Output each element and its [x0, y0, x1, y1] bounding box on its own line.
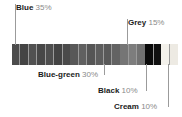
callout-percent-cream: 10%: [141, 102, 157, 111]
callout-name-blue-green: Blue-green: [38, 70, 80, 79]
color-proportion-bar: [12, 44, 178, 65]
callout-label-cream: Cream 10%: [114, 102, 157, 111]
callout-label-grey: Grey 15%: [128, 18, 164, 27]
callout-percent-grey: 15%: [148, 18, 164, 27]
bar-segment-blue-green[interactable]: [70, 44, 120, 65]
stripe: [120, 44, 128, 65]
stripe: [45, 44, 53, 65]
leader-line-blue-green: [104, 64, 105, 75]
stripe: [103, 44, 111, 65]
leader-line-cream: [168, 64, 169, 107]
bar-segment-blue[interactable]: [12, 44, 70, 65]
callout-label-black: Black 10%: [98, 86, 138, 95]
stripe: [128, 44, 137, 65]
stripe: [28, 44, 36, 65]
callout-percent-black: 10%: [122, 86, 138, 95]
callout-name-blue: Blue: [16, 3, 33, 12]
segment-stripes-black: [145, 44, 162, 65]
segment-stripes-grey: [120, 44, 145, 65]
segment-stripes-blue: [12, 44, 70, 65]
bar-segment-cream[interactable]: [161, 44, 178, 65]
stripe: [145, 44, 153, 65]
stripe: [111, 44, 119, 65]
color-proportion-chart: Blue 35% Grey 15% Blue-green 30% Black 1…: [0, 0, 182, 117]
stripe: [36, 44, 44, 65]
segment-stripes-cream: [161, 44, 178, 65]
stripe: [53, 44, 61, 65]
stripe: [70, 44, 77, 65]
segment-stripes-blue-green: [70, 44, 120, 65]
stripe: [19, 44, 27, 65]
stripe: [78, 44, 86, 65]
stripe: [161, 44, 169, 65]
stripe: [95, 44, 103, 65]
bar-segment-black[interactable]: [145, 44, 162, 65]
bar-segment-grey[interactable]: [120, 44, 145, 65]
callout-name-grey: Grey: [128, 18, 146, 27]
callout-percent-blue-green: 30%: [82, 70, 98, 79]
stripe: [62, 44, 70, 65]
callout-label-blue-green: Blue-green 30%: [38, 70, 98, 79]
callout-percent-blue: 35%: [36, 3, 52, 12]
callout-label-blue: Blue 35%: [16, 3, 52, 12]
callout-name-black: Black: [98, 86, 119, 95]
stripe: [169, 44, 178, 65]
stripe: [12, 44, 19, 65]
stripe: [153, 44, 162, 65]
stripe: [86, 44, 94, 65]
callout-name-cream: Cream: [114, 102, 139, 111]
leader-line-black: [146, 64, 147, 91]
stripe: [136, 44, 145, 65]
